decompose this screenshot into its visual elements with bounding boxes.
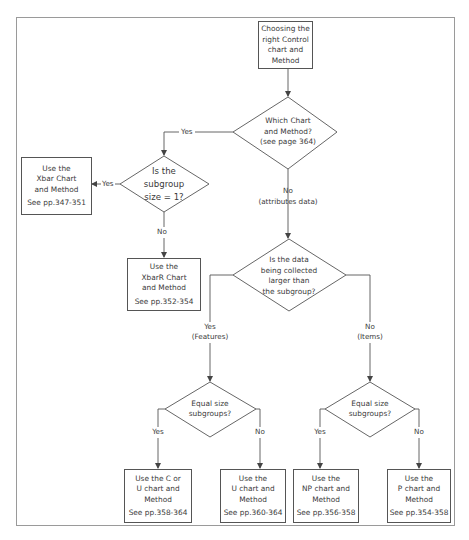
start-line-1: Choosing the — [261, 24, 310, 35]
decision-equal-right-line-2: subgroups? — [349, 409, 391, 420]
decision-subgroup-line-1: Is the — [152, 165, 176, 178]
result-u-line-3: Method — [239, 495, 267, 506]
result-c-or-u-box: Use the C or U chart and Method See pp.3… — [124, 469, 192, 523]
result-xbar-line-3: and Method — [35, 185, 79, 196]
label-main-no: No — [248, 186, 328, 197]
decision-data-line-3: larger than — [269, 276, 310, 287]
result-np-ref: See pp.356-358 — [297, 508, 356, 519]
result-c-or-u-ref: See pp.358-364 — [129, 508, 188, 519]
result-c-or-u-line-1: Use the C or — [135, 474, 181, 485]
flowchart-connectors — [0, 0, 469, 540]
decision-main-line-3: (see page 364) — [260, 137, 316, 148]
label-eq-right-yes: Yes — [312, 427, 328, 438]
result-p-line-3: Method — [405, 495, 433, 506]
result-u-ref: See pp.360-364 — [224, 508, 283, 519]
result-xbar-ref: See pp.347-351 — [27, 198, 86, 209]
result-xbar-line-2: Xbar Chart — [37, 174, 77, 185]
decision-data: Is the data being collected larger than … — [249, 254, 329, 298]
arrow-eq-right-no — [415, 409, 419, 468]
result-np-line-1: Use the — [312, 474, 340, 485]
result-xbarr-box: Use the XbarR Chart and Method See pp.35… — [127, 258, 201, 311]
label-eq-left-yes: Yes — [150, 427, 166, 438]
arrow-eq-right-yes — [320, 409, 325, 468]
result-p-ref: See pp.354-358 — [390, 508, 449, 519]
result-u-line-1: Use the — [239, 474, 267, 485]
label-data-no-note: (Items) — [350, 332, 390, 343]
result-p-line-1: Use the — [405, 474, 433, 485]
decision-subgroup-line-2: subgroup — [144, 178, 184, 191]
result-xbar-box: Use the Xbar Chart and Method See pp.347… — [21, 157, 92, 215]
label-data-no: No — [350, 322, 390, 333]
decision-subgroup: Is the subgroup size = 1? — [129, 164, 199, 204]
decision-equal-left-line-1: Equal size — [191, 399, 228, 410]
start-box: Choosing the right Control chart and Met… — [258, 21, 313, 69]
decision-data-line-1: Is the data — [269, 255, 309, 266]
result-xbarr-line-3: and Method — [142, 283, 186, 294]
start-line-2: right Control — [262, 35, 308, 46]
label-main-yes: Yes — [179, 127, 195, 138]
label-subgroup-no: No — [156, 227, 168, 238]
arrow-eq-left-yes — [158, 409, 165, 468]
decision-data-line-4: the subgroup? — [262, 287, 315, 298]
decision-subgroup-line-3: size = 1? — [144, 191, 183, 204]
label-data-yes: Yes — [186, 322, 234, 333]
result-c-or-u-line-3: Method — [144, 495, 172, 506]
result-np-line-3: Method — [312, 495, 340, 506]
decision-data-line-2: being collected — [261, 266, 317, 277]
result-xbarr-line-1: Use the — [150, 262, 178, 273]
result-np-box: Use the NP chart and Method See pp.356-3… — [293, 469, 359, 523]
label-eq-right-no: No — [412, 427, 426, 438]
result-xbarr-line-2: XbarR Chart — [141, 273, 186, 284]
arrow-eq-left-no — [256, 409, 260, 468]
start-line-3: chart and — [268, 45, 303, 56]
decision-main-line-2: and Method? — [264, 127, 312, 138]
result-p-box: Use the P chart and Method See pp.354-35… — [387, 469, 451, 523]
label-main-no-note: (attributes data) — [248, 197, 328, 208]
result-u-box: Use the U chart and Method See pp.360-36… — [220, 469, 286, 523]
decision-equal-left-line-2: subgroups? — [189, 409, 231, 420]
result-np-line-2: NP chart and — [302, 484, 350, 495]
decision-equal-left: Equal size subgroups? — [180, 398, 240, 420]
result-p-line-2: P chart and — [398, 484, 440, 495]
label-subgroup-yes: Yes — [101, 179, 115, 190]
result-xbar-line-1: Use the — [42, 164, 70, 175]
decision-main: Which Chart and Method? (see page 364) — [248, 114, 328, 150]
result-c-or-u-line-2: U chart and — [136, 484, 179, 495]
result-u-line-2: U chart and — [231, 484, 274, 495]
label-data-yes-note: (Features) — [186, 332, 234, 343]
result-xbarr-ref: See pp.352-354 — [135, 297, 194, 308]
start-line-4: Method — [272, 56, 300, 67]
decision-equal-right-line-1: Equal size — [351, 399, 388, 410]
label-eq-left-no: No — [253, 427, 267, 438]
arrow-main-yes — [164, 132, 233, 155]
decision-main-line-1: Which Chart — [265, 116, 310, 127]
decision-equal-right: Equal size subgroups? — [340, 398, 400, 420]
